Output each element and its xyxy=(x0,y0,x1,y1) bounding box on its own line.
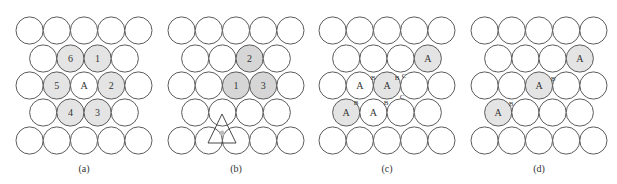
sphere xyxy=(580,17,607,44)
panel-b: 213(b) xyxy=(168,17,304,175)
sphere xyxy=(30,99,57,126)
sphere-label: 3 xyxy=(95,107,100,118)
sphere xyxy=(360,45,387,72)
sphere-label: 1 xyxy=(234,80,239,91)
sphere xyxy=(373,17,400,44)
sphere xyxy=(168,127,195,154)
sphere-label: A xyxy=(343,107,351,118)
sphere xyxy=(236,99,263,126)
sphere xyxy=(43,127,70,154)
sphere-label: 5 xyxy=(54,80,59,91)
sphere xyxy=(428,127,455,154)
sphere xyxy=(319,127,346,154)
sphere xyxy=(346,17,373,44)
sphere xyxy=(414,99,441,126)
sphere xyxy=(319,17,346,44)
panel-caption: (c) xyxy=(381,163,392,175)
sphere xyxy=(168,72,195,99)
sphere xyxy=(195,72,222,99)
sphere xyxy=(525,127,552,154)
site-label: B xyxy=(395,74,400,82)
site-label: B xyxy=(384,99,389,107)
sphere-label: A xyxy=(424,53,432,64)
sphere xyxy=(168,17,195,44)
site-label: B xyxy=(371,74,376,82)
sphere-label: 1 xyxy=(95,53,100,64)
sphere xyxy=(16,72,43,99)
sphere-label: 6 xyxy=(68,53,73,64)
sphere-label: 2 xyxy=(109,80,114,91)
site-label: B xyxy=(354,99,359,107)
sphere-label: A xyxy=(80,80,88,91)
sphere xyxy=(539,45,566,72)
sphere xyxy=(182,99,209,126)
sphere xyxy=(553,72,580,99)
sphere xyxy=(346,127,373,154)
sphere xyxy=(566,99,593,126)
sphere xyxy=(250,127,277,154)
panel-d: AAABB(d) xyxy=(471,17,607,175)
figure-canvas: 615A243(a)213(b)AAAAABBCBBC(c)AAABB(d) xyxy=(0,0,617,184)
sphere xyxy=(498,127,525,154)
sphere xyxy=(401,127,428,154)
sphere xyxy=(263,99,290,126)
sphere xyxy=(277,127,304,154)
sphere xyxy=(498,72,525,99)
sphere-label: A xyxy=(495,107,503,118)
sphere xyxy=(428,72,455,99)
sphere xyxy=(222,17,249,44)
sphere xyxy=(387,45,414,72)
sphere xyxy=(98,127,125,154)
panel-caption: (b) xyxy=(230,163,242,175)
sphere xyxy=(250,17,277,44)
sphere-label: A xyxy=(356,80,364,91)
panel-caption: (d) xyxy=(533,163,545,175)
sphere xyxy=(553,17,580,44)
sphere xyxy=(70,127,97,154)
sphere xyxy=(125,72,152,99)
sphere xyxy=(263,45,290,72)
sphere xyxy=(16,127,43,154)
site-label: B xyxy=(509,100,514,108)
sphere xyxy=(43,17,70,44)
site-label: B xyxy=(551,75,556,83)
sphere-label: A xyxy=(576,53,584,64)
sphere xyxy=(195,17,222,44)
sphere xyxy=(525,17,552,44)
sphere xyxy=(222,127,249,154)
sphere xyxy=(471,17,498,44)
sphere xyxy=(373,127,400,154)
sphere xyxy=(401,17,428,44)
sphere xyxy=(277,17,304,44)
interstice-marker xyxy=(219,130,224,135)
sphere xyxy=(471,127,498,154)
sphere xyxy=(512,45,539,72)
sphere xyxy=(111,45,138,72)
sphere-label: 3 xyxy=(261,80,266,91)
sphere xyxy=(98,17,125,44)
sphere xyxy=(333,45,360,72)
sphere xyxy=(125,17,152,44)
sphere xyxy=(485,45,512,72)
sphere xyxy=(580,72,607,99)
sphere xyxy=(319,72,346,99)
sphere xyxy=(498,17,525,44)
sphere xyxy=(70,17,97,44)
sphere xyxy=(512,99,539,126)
sphere xyxy=(387,99,414,126)
sphere-label: 2 xyxy=(247,53,252,64)
site-label: C xyxy=(400,93,405,101)
sphere xyxy=(209,99,236,126)
sphere xyxy=(30,45,57,72)
panel-c: AAAAABBCBBC(c) xyxy=(319,17,455,175)
sphere xyxy=(209,45,236,72)
sphere xyxy=(471,72,498,99)
sphere-label: 4 xyxy=(68,107,73,118)
sphere-label: A xyxy=(535,80,543,91)
panel-caption: (a) xyxy=(78,163,89,175)
sphere-label: A xyxy=(370,107,378,118)
site-label: C xyxy=(402,72,407,80)
sphere xyxy=(125,127,152,154)
sphere xyxy=(553,127,580,154)
sphere-label: A xyxy=(383,80,391,91)
